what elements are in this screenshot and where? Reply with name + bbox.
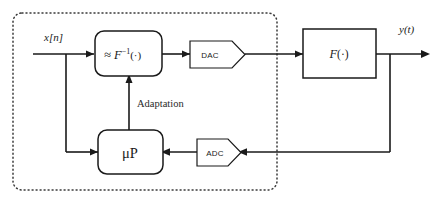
- arrowhead-dac-to-system: [295, 51, 303, 58]
- arrowhead-input-tap-to-microprocessor: [90, 149, 98, 156]
- label-output-signal: y(t): [398, 23, 415, 36]
- diagram-canvas: x[n] y(t) ≈ F−1(·) DAC F(·) ADC μP Adapt…: [0, 0, 439, 207]
- arrowhead-predistorter-to-dac: [182, 51, 190, 58]
- label-predistorter-main: ≈ F: [104, 48, 122, 62]
- label-predistorter-exponent: −1: [122, 47, 131, 56]
- label-microprocessor: μP: [122, 145, 138, 161]
- block-diagram: x[n] y(t) ≈ F−1(·) DAC F(·) ADC μP Adapt…: [0, 0, 439, 207]
- label-system-function: F(·): [328, 47, 348, 61]
- arrowhead-input-to-predistorter: [86, 51, 94, 58]
- label-dac: DAC: [201, 51, 219, 60]
- arrowhead-output: [421, 50, 430, 58]
- label-predistorter-argument: (·): [130, 49, 141, 62]
- label-system-function-argument: (·): [337, 48, 349, 61]
- label-adc: ADC: [206, 149, 224, 158]
- label-input-signal: x[n]: [43, 31, 63, 43]
- label-adaptation: Adaptation: [137, 98, 184, 109]
